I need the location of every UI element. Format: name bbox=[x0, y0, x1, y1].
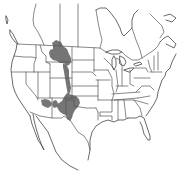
range-map-svg bbox=[0, 0, 185, 184]
great-lakes bbox=[106, 50, 142, 72]
ontario-quebec-border bbox=[132, 28, 142, 58]
virginia-border bbox=[136, 86, 154, 92]
arkansas-border bbox=[98, 100, 112, 116]
lake-superior bbox=[106, 50, 122, 54]
michigan-lower bbox=[116, 58, 122, 70]
quebec-labrador bbox=[150, 14, 164, 38]
pa-ny-border bbox=[134, 68, 150, 78]
missouri-east bbox=[108, 70, 114, 100]
manitoba-ontario-border bbox=[96, 10, 102, 48]
ms-al-border bbox=[112, 100, 126, 120]
range-central bbox=[63, 63, 71, 95]
us-mexico-border bbox=[30, 112, 90, 150]
tn-ky-border bbox=[112, 92, 140, 100]
atlantic-coast bbox=[146, 54, 176, 116]
us-state-borders bbox=[12, 45, 162, 150]
lake-erie bbox=[124, 68, 134, 72]
georgia-border bbox=[124, 100, 142, 116]
gulf-coast bbox=[88, 118, 128, 160]
coastlines bbox=[6, 8, 176, 170]
canada-boundaries bbox=[17, 4, 164, 60]
tx-east-border bbox=[96, 108, 98, 112]
range-south-west bbox=[41, 99, 52, 108]
species-range bbox=[41, 40, 80, 121]
baja-california bbox=[30, 114, 44, 150]
ca-nv-border bbox=[26, 72, 38, 100]
range-south-east bbox=[56, 93, 80, 121]
newfoundland bbox=[164, 14, 176, 22]
lake-huron bbox=[120, 56, 126, 66]
pacific-coast bbox=[11, 44, 30, 116]
vancouver-island bbox=[10, 30, 18, 44]
wa-or-border bbox=[14, 56, 36, 58]
new-england-borders bbox=[148, 52, 162, 72]
range-map bbox=[0, 0, 185, 184]
oh-pa-border bbox=[130, 70, 134, 86]
lake-ontario bbox=[134, 62, 142, 66]
florida bbox=[128, 116, 150, 140]
id-west-border bbox=[34, 45, 36, 72]
hudson-bay bbox=[96, 8, 138, 36]
sd-ne-border bbox=[72, 72, 96, 76]
us-canada-border bbox=[17, 42, 160, 60]
haida-gwaii bbox=[6, 16, 8, 24]
id-mt-border bbox=[40, 45, 50, 64]
maritimes bbox=[160, 36, 176, 48]
il-in-border bbox=[116, 70, 118, 92]
mexico-west-coast bbox=[36, 116, 78, 170]
bc-alberta-border bbox=[33, 4, 44, 45]
